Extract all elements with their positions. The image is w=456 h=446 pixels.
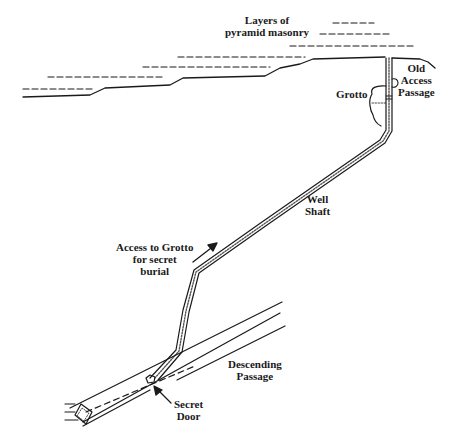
grotto-outline (370, 86, 386, 126)
masonry-layers (23, 23, 415, 89)
label-masonry: Layers of pyramid masonry (225, 14, 309, 38)
label-old-access-passage: Old Access Passage (398, 62, 435, 98)
label-well-shaft: Well Shaft (305, 193, 330, 217)
secret-door (146, 375, 155, 383)
label-descending-passage: Descending Passage (228, 358, 282, 382)
label-grotto: Grotto (336, 88, 368, 100)
arrow-secret-door-icon (154, 386, 171, 403)
label-secret-door: Secret Door (174, 398, 203, 422)
well-shaft (150, 58, 392, 380)
label-access-grotto: Access to Grotto for secret burial (116, 241, 193, 277)
